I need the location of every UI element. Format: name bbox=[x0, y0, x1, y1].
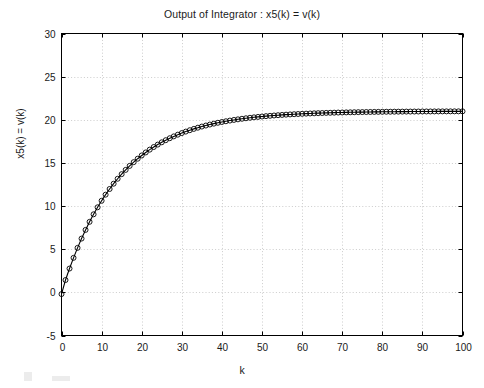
svg-text:25: 25 bbox=[44, 72, 56, 83]
svg-text:10: 10 bbox=[97, 342, 109, 353]
svg-text:60: 60 bbox=[297, 342, 309, 353]
svg-text:5: 5 bbox=[50, 244, 56, 255]
svg-text:10: 10 bbox=[44, 201, 56, 212]
svg-text:15: 15 bbox=[44, 158, 56, 169]
data-series-markers bbox=[59, 109, 465, 297]
figure-container: Output of Integrator : x5(k) = v(k) 0102… bbox=[0, 0, 484, 388]
svg-text:40: 40 bbox=[217, 342, 229, 353]
svg-text:-5: -5 bbox=[47, 331, 56, 342]
svg-text:70: 70 bbox=[337, 342, 349, 353]
plot-frame bbox=[62, 34, 463, 336]
svg-text:80: 80 bbox=[377, 342, 389, 353]
svg-text:0: 0 bbox=[50, 287, 56, 298]
svg-text:30: 30 bbox=[44, 29, 56, 40]
data-series-line bbox=[62, 111, 463, 294]
svg-text:50: 50 bbox=[257, 342, 269, 353]
svg-text:100: 100 bbox=[455, 342, 472, 353]
x-axis-label: k bbox=[0, 364, 484, 376]
svg-text:0: 0 bbox=[60, 342, 66, 353]
scan-artifact bbox=[52, 376, 70, 381]
scan-artifact bbox=[24, 372, 32, 381]
gridlines-group bbox=[62, 34, 463, 336]
plot-canvas: 0102030405060708090100-5051015202530 bbox=[0, 0, 484, 388]
y-axis-label: x5(k) = v(k) bbox=[15, 74, 26, 194]
svg-text:30: 30 bbox=[177, 342, 189, 353]
svg-text:20: 20 bbox=[44, 115, 56, 126]
svg-text:90: 90 bbox=[417, 342, 429, 353]
svg-text:20: 20 bbox=[137, 342, 149, 353]
